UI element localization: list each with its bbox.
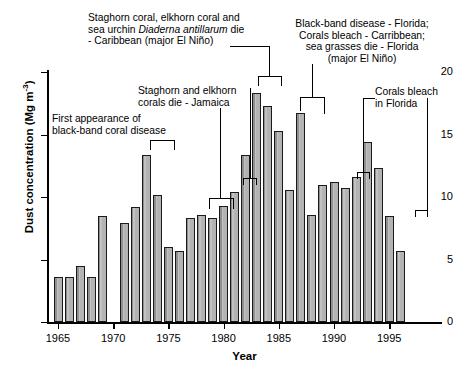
annotation-caribbean-elnino-species: Diaderna antillarum: [138, 24, 227, 35]
annotation-staghorn-jamaica-line2: corals die - Jamaica: [138, 97, 253, 109]
annotation-corals-bleach-florida-line2: in Florida: [375, 98, 447, 110]
x-tick-label-1985: 1985: [259, 332, 299, 344]
x-tick-label-1980: 1980: [204, 332, 244, 344]
leader-blackband-florida-top: [300, 97, 325, 98]
annotation-staghorn-jamaica-line1: Staghorn and elkhorn: [138, 85, 253, 97]
y-tick-5: [41, 260, 47, 261]
x-tick-1995: [389, 323, 390, 329]
x-tick-1965: [58, 323, 59, 329]
bar-1974: [153, 195, 162, 323]
bar-1983: [252, 93, 261, 322]
x-tick-1990: [334, 323, 335, 329]
x-tick-label-1975: 1975: [148, 332, 188, 344]
x-tick-label-1995: 1995: [369, 332, 409, 344]
annotation-blackband-florida-line4: (major El Niño): [282, 53, 442, 65]
bar-1977: [186, 218, 195, 322]
y-tick-label-0: 0: [429, 316, 453, 327]
annotation-corals-bleach-florida: Corals bleach in Florida: [375, 86, 447, 109]
y-tick-0: [41, 322, 47, 323]
bar-1995: [385, 216, 394, 322]
bar-1989: [318, 185, 327, 323]
annotation-caribbean-elnino-line2-post: die: [228, 24, 245, 35]
bar-1981: [230, 192, 239, 322]
bar-1971: [120, 223, 129, 322]
annotation-caribbean-elnino-line2: sea urchin Diaderna antillarum die: [88, 24, 263, 36]
x-tick-1975: [168, 323, 169, 329]
annotation-blackband-florida-line2: Corals bleach - Carribbean;: [282, 30, 442, 42]
leader-1990-left: [357, 172, 358, 179]
leader-staghorn-jamaica-right: [233, 198, 234, 209]
bar-1988: [307, 215, 316, 323]
bar-1969: [98, 216, 107, 322]
bar-1979: [208, 218, 217, 322]
leader-1981-stem: [250, 88, 251, 178]
leader-caribbean-elnino-top: [258, 76, 282, 77]
leader-1981-left: [243, 178, 244, 185]
leader-staghorn-jamaica-stem: [220, 108, 221, 198]
leader-1995-left: [415, 210, 416, 217]
bar-1994: [374, 168, 383, 322]
bar-1965: [54, 277, 63, 322]
y-tick-10: [41, 197, 47, 198]
bar-1978: [197, 215, 206, 323]
leader-corals-bleach-left-horiz: [363, 98, 375, 99]
bar-1976: [175, 251, 184, 322]
bar-1980: [219, 206, 228, 322]
leader-first-appearance-left: [150, 140, 151, 150]
leader-staghorn-jamaica-left: [209, 198, 210, 209]
y-tick-label-15: 15: [429, 129, 453, 140]
annotation-caribbean-elnino: Staghorn coral, elkhorn coral and sea ur…: [88, 12, 263, 47]
y-axis-title: Dust concentration (Mg m-3): [21, 67, 35, 247]
bar-1984: [263, 106, 272, 322]
bar-1996: [396, 251, 405, 322]
bar-1992: [352, 177, 361, 322]
x-tick-1980: [224, 323, 225, 329]
leader-caribbean-elnino-right: [281, 76, 282, 86]
leader-corals-bleach-left-stem: [363, 98, 364, 172]
annotation-staghorn-jamaica: Staghorn and elkhorn corals die - Jamaic…: [138, 85, 253, 108]
leader-caribbean-elnino-stem: [269, 46, 270, 76]
bar-1985: [274, 131, 283, 322]
bar-1987: [296, 113, 305, 322]
bar-1966: [65, 277, 74, 322]
y-tick-label-10: 10: [429, 191, 453, 202]
leader-1981-top: [243, 178, 257, 179]
x-axis-line: [47, 322, 442, 324]
bar-1975: [164, 247, 173, 322]
annotation-corals-bleach-florida-line1: Corals bleach: [375, 86, 447, 98]
bar-1991: [341, 188, 350, 322]
leader-blackband-florida-stem: [312, 64, 313, 97]
leader-caribbean-elnino-horiz: [230, 46, 270, 47]
leader-staghorn-jamaica-top: [209, 198, 234, 199]
annotation-blackband-florida: Black-band disease - Florida; Corals ble…: [282, 18, 442, 64]
leader-corals-bleach-right-stem: [427, 98, 428, 210]
y-tick-15: [41, 135, 47, 136]
y-tick-label-5: 5: [429, 254, 453, 265]
bar-1967: [76, 266, 85, 322]
annotation-first-appearance-line1: First appearance of: [52, 113, 187, 125]
bar-1968: [87, 277, 96, 322]
leader-blackband-florida-left: [300, 97, 301, 111]
annotation-blackband-florida-line1: Black-band disease - Florida;: [282, 18, 442, 30]
y-tick-label-20: 20: [429, 66, 453, 77]
y-axis-title-text: Dust concentration (Mg m: [23, 91, 35, 233]
dust-concentration-bar-chart: 0 5 10 15 20 1965 1970 1975 1980 1985 19…: [0, 0, 453, 376]
x-tick-1985: [279, 323, 280, 329]
leader-first-appearance-right: [174, 140, 175, 150]
y-axis-title-close: ): [23, 81, 35, 85]
x-tick-label-1990: 1990: [314, 332, 354, 344]
annotation-first-appearance-line2: black-band coral disease: [52, 125, 187, 137]
annotation-caribbean-elnino-line1: Staghorn coral, elkhorn coral and: [88, 12, 263, 24]
bar-1986: [285, 190, 294, 323]
annotation-first-appearance: First appearance of black-band coral dis…: [52, 113, 187, 136]
y-axis-line: [47, 70, 49, 324]
x-tick-label-1965: 1965: [38, 332, 78, 344]
leader-1981-right: [256, 178, 257, 185]
bar-1990: [330, 182, 339, 322]
bar-1972: [131, 207, 140, 322]
leader-1990-right: [369, 172, 370, 179]
leader-first-appearance-top: [150, 140, 175, 141]
annotation-blackband-florida-line3: sea grasses die - Florida: [282, 41, 442, 53]
leader-blackband-florida-right: [324, 97, 325, 114]
x-axis-title: Year: [47, 350, 442, 362]
